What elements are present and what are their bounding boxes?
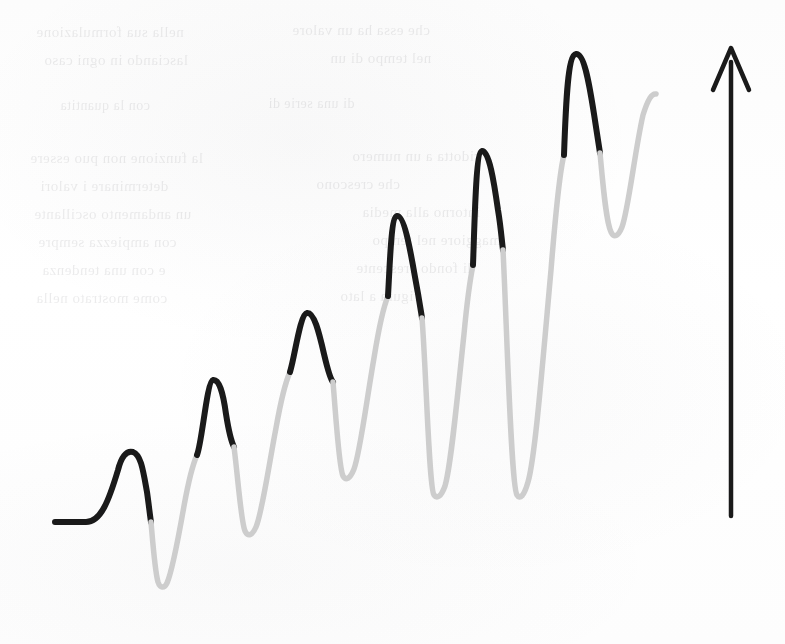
curve-segment-light (234, 372, 290, 535)
curve-segment-dark (388, 216, 422, 318)
curve-segment-light (151, 455, 197, 587)
curve-segment-light (333, 296, 388, 479)
oscillation-figure-svg (0, 0, 785, 644)
curve-segment-dark (290, 313, 333, 382)
rising-oscillation-curve (55, 54, 656, 587)
curve-segment-light (503, 155, 564, 497)
figure-root: nella sua formulazioneche essa ha un val… (0, 0, 785, 644)
up-arrow-annotation (713, 48, 749, 516)
curve-segment-dark (473, 151, 503, 265)
curve-segment-dark (197, 380, 234, 455)
curve-segment-light (422, 265, 473, 497)
curve-segment-light (600, 94, 656, 236)
curve-segment-dark (55, 452, 151, 522)
curve-segment-dark (564, 54, 600, 155)
